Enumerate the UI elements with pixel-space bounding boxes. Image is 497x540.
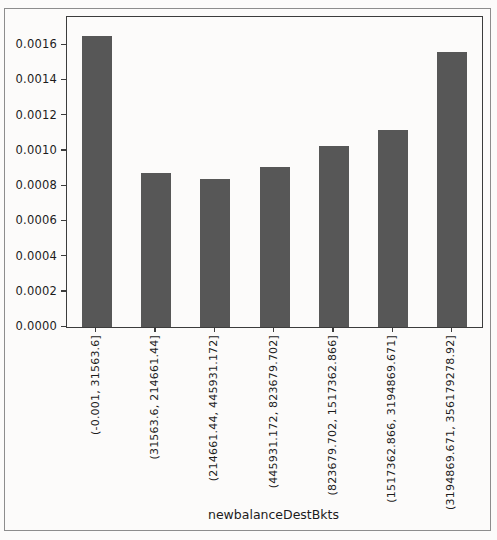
y-tick-label: 0.0010 bbox=[0, 143, 57, 157]
y-tick-label: 0.0006 bbox=[0, 213, 57, 227]
x-axis-title: newbalanceDestBkts bbox=[66, 507, 481, 522]
y-tick-label: 0.0002 bbox=[0, 284, 57, 298]
bar bbox=[141, 173, 171, 327]
bar bbox=[82, 36, 112, 327]
y-tick-mark bbox=[61, 255, 66, 256]
bar bbox=[437, 52, 467, 327]
y-tick-label: 0.0008 bbox=[0, 178, 57, 192]
bar bbox=[319, 146, 349, 327]
x-tick-mark bbox=[273, 327, 274, 332]
figure: 0.00000.00020.00040.00060.00080.00100.00… bbox=[0, 0, 497, 540]
y-tick-mark bbox=[61, 290, 66, 291]
x-tick-label: (3194869.671, 356179278.92] bbox=[444, 335, 458, 510]
x-tick-mark bbox=[154, 327, 155, 332]
x-tick-mark bbox=[214, 327, 215, 332]
x-tick-label: (-0.001, 31563.6] bbox=[89, 335, 103, 435]
x-tick-mark bbox=[332, 327, 333, 332]
x-tick-label: (214661.44, 445931.172] bbox=[207, 335, 221, 481]
y-tick-mark bbox=[61, 185, 66, 186]
y-tick-mark bbox=[61, 44, 66, 45]
x-tick-mark bbox=[451, 327, 452, 332]
y-tick-label: 0.0012 bbox=[0, 108, 57, 122]
y-tick-label: 0.0004 bbox=[0, 249, 57, 263]
x-tick-label: (823679.702, 1517362.866] bbox=[326, 335, 340, 496]
y-tick-label: 0.0000 bbox=[0, 319, 57, 333]
plot-area bbox=[66, 16, 483, 328]
y-tick-mark bbox=[61, 79, 66, 80]
y-tick-mark bbox=[61, 220, 66, 221]
x-tick-mark bbox=[95, 327, 96, 332]
x-tick-label: (1517362.866, 3194869.671] bbox=[385, 335, 399, 503]
bar bbox=[200, 179, 230, 327]
bar bbox=[260, 167, 290, 327]
x-tick-mark bbox=[392, 327, 393, 332]
y-tick-label: 0.0014 bbox=[0, 72, 57, 86]
bar bbox=[378, 130, 408, 327]
x-tick-label: (31563.6, 214661.44] bbox=[148, 335, 162, 460]
y-tick-mark bbox=[61, 326, 66, 327]
x-tick-label: (445931.172, 823679.702] bbox=[267, 335, 281, 488]
y-tick-mark bbox=[61, 149, 66, 150]
y-tick-mark bbox=[61, 114, 66, 115]
y-tick-label: 0.0016 bbox=[0, 37, 57, 51]
